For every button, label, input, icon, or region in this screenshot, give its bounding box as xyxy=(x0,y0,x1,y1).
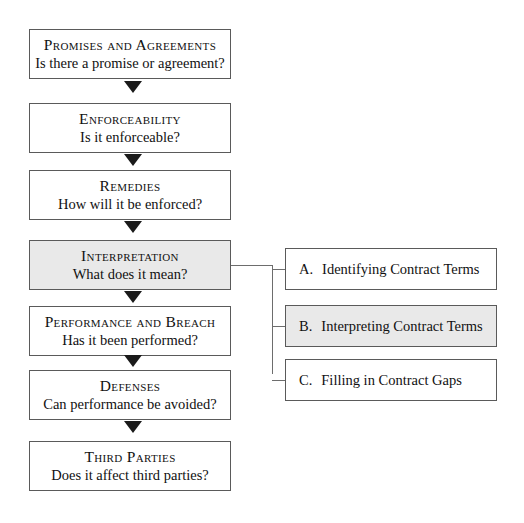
down-arrow-icon xyxy=(124,221,142,233)
down-arrow-icon xyxy=(124,355,142,367)
down-arrow-icon xyxy=(124,291,142,303)
branch-node-interpreting-contract-terms[interactable]: B. Interpreting Contract Terms xyxy=(285,305,497,347)
flow-node-performance-and-breach[interactable]: Performance and Breach Has it been perfo… xyxy=(29,306,231,356)
branch-marker: A. xyxy=(286,261,322,278)
flow-node-title: Defenses xyxy=(100,378,160,394)
connector-branch-trunk xyxy=(272,266,273,374)
connector-stub-branch-c xyxy=(272,380,286,381)
flow-node-promises-and-agreements[interactable]: Promises and Agreements Is there a promi… xyxy=(29,29,231,79)
flow-node-question: Is there a promise or agreement? xyxy=(35,56,225,71)
flow-node-interpretation[interactable]: Interpretation What does it mean? xyxy=(29,240,231,290)
down-arrow-icon xyxy=(124,154,142,166)
flow-node-title: Promises and Agreements xyxy=(44,37,216,53)
down-arrow-icon xyxy=(124,81,142,93)
branch-label: Interpreting Contract Terms xyxy=(321,318,482,335)
branch-node-filling-in-contract-gaps[interactable]: C. Filling in Contract Gaps xyxy=(285,359,497,401)
flowchart-canvas: Promises and Agreements Is there a promi… xyxy=(0,0,524,523)
flow-node-title: Interpretation xyxy=(81,248,179,264)
flow-node-question: Can performance be avoided? xyxy=(43,397,217,412)
flow-node-enforceability[interactable]: Enforceability Is it enforceable? xyxy=(29,103,231,153)
flow-node-remedies[interactable]: Remedies How will it be enforced? xyxy=(29,170,231,220)
connector-interpretation-to-branches xyxy=(231,265,273,266)
flow-node-question: Does it affect third parties? xyxy=(51,468,209,483)
flow-node-question: Has it been performed? xyxy=(62,333,198,348)
connector-stub-branch-a xyxy=(272,269,286,270)
flow-node-title: Enforceability xyxy=(79,111,181,127)
branch-marker: C. xyxy=(286,372,321,389)
branch-label: Identifying Contract Terms xyxy=(322,261,479,278)
flow-node-title: Third Parties xyxy=(84,449,175,465)
branch-node-identifying-contract-terms[interactable]: A. Identifying Contract Terms xyxy=(285,248,497,290)
branch-marker: B. xyxy=(286,318,321,335)
connector-stub-branch-b xyxy=(272,326,286,327)
flow-node-third-parties[interactable]: Third Parties Does it affect third parti… xyxy=(29,441,231,491)
flow-node-question: How will it be enforced? xyxy=(58,197,202,212)
flow-node-question: Is it enforceable? xyxy=(80,130,180,145)
flow-node-title: Remedies xyxy=(100,178,161,194)
flow-node-question: What does it mean? xyxy=(73,267,188,282)
down-arrow-icon xyxy=(124,421,142,433)
flow-node-defenses[interactable]: Defenses Can performance be avoided? xyxy=(29,370,231,420)
flow-node-title: Performance and Breach xyxy=(45,314,216,330)
branch-label: Filling in Contract Gaps xyxy=(321,372,462,389)
